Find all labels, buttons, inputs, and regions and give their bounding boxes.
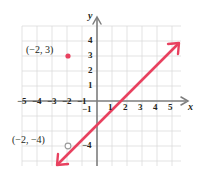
x-tick-5: 5	[168, 102, 172, 112]
y-axis-label: y	[88, 10, 92, 21]
graph-canvas	[0, 0, 201, 172]
x-axis-label: x	[188, 101, 193, 112]
x-tick-minus4: −4	[32, 96, 41, 106]
y-tick-minus4: −4	[82, 140, 91, 150]
x-tick-minus3: −3	[47, 96, 56, 106]
y-tick-1: 1	[88, 80, 92, 90]
open-point-marker	[65, 143, 71, 149]
coordinate-graph-figure: y x −5 −4 −3 −2 −1 1 2 3 4 5 4 3 2 1 −1 …	[0, 0, 201, 172]
axis-lines	[22, 18, 186, 166]
y-tick-3: 3	[88, 50, 92, 60]
x-tick-minus5: −5	[17, 96, 26, 106]
x-tick-4: 4	[153, 102, 157, 112]
point-label-upper: (−2, 3)	[26, 44, 53, 55]
plotted-line	[57, 43, 179, 165]
y-tick-2: 2	[88, 65, 92, 75]
x-tick-minus2: −2	[62, 96, 71, 106]
x-tick-3: 3	[138, 102, 142, 112]
closed-point-marker	[65, 53, 70, 58]
y-tick-4: 4	[88, 35, 92, 45]
point-label-lower: (−2, −4)	[12, 134, 45, 145]
x-tick-1: 1	[108, 102, 112, 112]
y-tick-minus1: −1	[82, 104, 91, 114]
axis-arrowheads	[93, 17, 188, 105]
x-tick-2: 2	[123, 102, 127, 112]
